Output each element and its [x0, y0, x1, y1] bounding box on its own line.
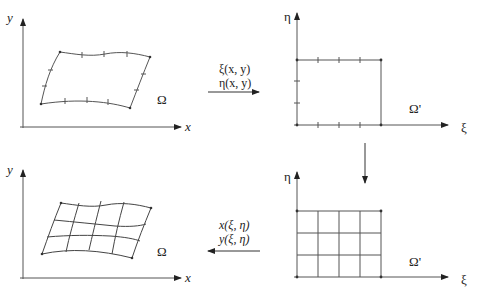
- corner-points: [41, 202, 153, 260]
- y-axis-label: y: [5, 10, 13, 25]
- boundary-ticks: [294, 57, 360, 128]
- inverse-mapping: x(ξ, η) y(ξ, η): [208, 218, 260, 251]
- eta-axis-label: η: [284, 169, 291, 184]
- computational-domain-boundary-panel: η ξ Ω': [284, 9, 467, 135]
- curvilinear-grid: [42, 201, 151, 258]
- corner-points: [296, 59, 383, 127]
- xi-axis-label: ξ: [461, 272, 467, 287]
- xi-axis-label: ξ: [461, 120, 467, 135]
- forward-mapping: ξ(x, y) η(x, y): [208, 62, 259, 92]
- region-label-omega-prime: Ω': [409, 254, 421, 269]
- x-axis-label: x: [184, 119, 191, 134]
- region-label-omega: Ω: [157, 92, 167, 107]
- region-label-omega: Ω: [157, 244, 167, 259]
- boundary-square: [297, 60, 381, 125]
- physical-domain-boundary-panel: y x Ω: [5, 10, 191, 134]
- corner-points: [40, 51, 152, 110]
- x-axis-label: x: [184, 270, 191, 285]
- forward-map-xi: ξ(x, y): [219, 62, 250, 76]
- boundary-curve: [41, 52, 150, 108]
- y-axis-label: y: [5, 162, 13, 177]
- eta-axis-label: η: [284, 9, 291, 24]
- region-label-omega-prime: Ω': [409, 101, 421, 116]
- inverse-map-x: x(ξ, η): [218, 218, 249, 232]
- forward-map-eta: η(x, y): [219, 76, 251, 90]
- inverse-map-y: y(ξ, η): [218, 232, 249, 246]
- computational-grid-panel: η ξ Ω': [284, 169, 467, 287]
- boundary-ticks: [42, 51, 146, 105]
- uniform-grid: [297, 211, 381, 277]
- physical-grid-panel: y x Ω: [5, 162, 191, 285]
